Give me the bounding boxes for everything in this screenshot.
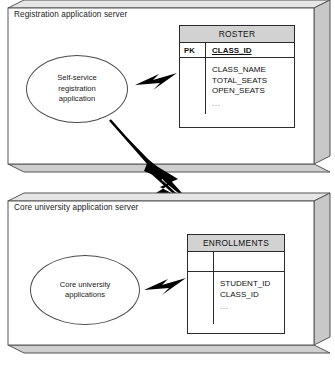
- entity-key-row-roster: PK CLASS_ID: [180, 43, 294, 58]
- app-label-line: applications: [60, 290, 111, 301]
- entity-attribute: STUDENT_ID: [220, 279, 284, 290]
- lightning-bolt-icon: [135, 73, 177, 90]
- app-label-line: registration: [57, 84, 97, 95]
- entity-key-attribute-enrollments: [214, 252, 284, 271]
- entity-attribute: TOTAL_SEATS: [212, 76, 294, 87]
- server-box-side-face: [314, 193, 330, 345]
- server-box-top-face: [8, 0, 330, 8]
- app-node-label-registration: Self-service registration application: [57, 73, 97, 105]
- connector-bolt-core-to-enrollments: [142, 274, 190, 302]
- entity-attribute-ellipsis: ...: [212, 97, 294, 110]
- entity-key-row-enrollments: [188, 252, 284, 272]
- entity-table-enrollments: ENROLLMENTS STUDENT_ID CLASS_ID ...: [187, 234, 285, 334]
- entity-attribute-row-roster: CLASS_NAME TOTAL_SEATS OPEN_SEATS ...: [180, 58, 294, 114]
- server-box-side-face: [314, 0, 330, 164]
- entity-key-attribute-roster: CLASS_ID: [206, 43, 294, 57]
- app-label-line: application: [57, 94, 97, 105]
- server-label-core-university: Core university application server: [14, 203, 138, 212]
- entity-key-label-roster: PK: [180, 43, 206, 57]
- entity-title-roster: ROSTER: [180, 26, 294, 43]
- entity-key-label-enrollments: [188, 252, 214, 271]
- server-box-bottom-face: [8, 345, 330, 353]
- diagram-canvas: Registration application server Self-ser…: [0, 0, 335, 367]
- entity-attribute-key-gutter: [188, 272, 214, 324]
- connector-bolt-registration-to-roster: [133, 69, 181, 97]
- entity-title-enrollments: ENROLLMENTS: [188, 235, 284, 252]
- er-deployment-diagram: Registration application server Self-ser…: [0, 0, 335, 367]
- lightning-bolt-icon: [144, 278, 186, 295]
- entity-attribute-list-enrollments: STUDENT_ID CLASS_ID ...: [214, 272, 284, 324]
- entity-attribute: OPEN_SEATS: [212, 86, 294, 97]
- app-label-line: Self-service: [57, 73, 97, 84]
- entity-attribute-key-gutter: [180, 58, 206, 114]
- entity-attribute-ellipsis: ...: [220, 300, 284, 313]
- server-box-top-face: [8, 193, 330, 201]
- app-node-core-university-applications: Core university applications: [30, 255, 140, 325]
- server-label-registration: Registration application server: [14, 10, 127, 19]
- app-label-line: Core university: [60, 280, 111, 291]
- entity-attribute: CLASS_ID: [220, 290, 284, 301]
- entity-attribute-list-roster: CLASS_NAME TOTAL_SEATS OPEN_SEATS ...: [206, 58, 294, 114]
- entity-attribute-row-enrollments: STUDENT_ID CLASS_ID ...: [188, 272, 284, 324]
- app-node-label-core-university: Core university applications: [60, 280, 111, 301]
- entity-attribute: CLASS_NAME: [212, 65, 294, 76]
